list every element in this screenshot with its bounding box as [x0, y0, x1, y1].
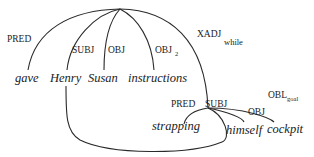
dependency-diagram: PRED SUBJ OBJ OBJ 2 XADJ while PRED SUBJ… [0, 0, 314, 157]
label-pred-lower: PRED [171, 99, 195, 109]
label-subj-lower: SUBJ [205, 99, 227, 109]
word-instructions: instructions [128, 71, 187, 85]
word-henry: Henry [49, 71, 82, 85]
label-obl-main: OBL [268, 90, 287, 100]
word-gave: gave [15, 71, 39, 85]
label-obj2-subscript: 2 [175, 50, 178, 57]
edge-subj-henry [67, 9, 120, 70]
word-cockpit: cockpit [267, 122, 304, 136]
label-obj2-main: OBJ [155, 45, 172, 55]
word-himself: himself [226, 123, 264, 137]
label-subj: SUBJ [72, 45, 94, 55]
edge-obj-susan [104, 9, 120, 70]
edge-obj2-instructions [120, 9, 154, 70]
label-obj2: OBJ 2 [155, 45, 178, 57]
label-obl-subscript: goal [287, 95, 298, 102]
label-obj: OBJ [108, 45, 125, 55]
word-strapping: strapping [152, 119, 200, 133]
word-susan: Susan [88, 71, 118, 85]
edge-subj-control-henry [66, 86, 227, 152]
label-xadj: XADJ while [197, 29, 243, 47]
label-obl-goal: OBL goal [268, 90, 298, 102]
edge-xadj-while [120, 9, 208, 108]
label-xadj-main: XADJ [197, 29, 222, 39]
label-pred: PRED [7, 34, 31, 44]
label-obj-lower: OBJ [248, 107, 265, 117]
label-xadj-subscript: while [224, 37, 243, 47]
